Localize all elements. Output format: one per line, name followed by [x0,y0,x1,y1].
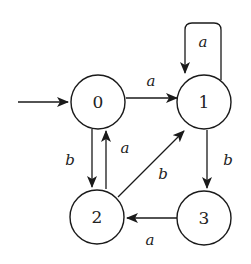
edge-1-1 [185,23,221,80]
state-0-label: 0 [93,92,104,112]
state-2: 2 [70,190,124,244]
state-1-label: 1 [199,92,210,112]
edge-0-2-label: b [65,151,75,169]
edge-3-2-label: a [146,231,155,249]
edge-0-1-label: a [147,72,156,90]
edge-2-0-label: a [121,139,130,157]
state-2-label: 2 [92,207,103,227]
edge-2-1-label: b [158,165,168,183]
state-3: 3 [177,191,231,245]
state-0: 0 [71,75,125,129]
automaton-diagram: a a b a b b a 0 1 2 3 [0,0,251,264]
state-1: 1 [177,75,231,129]
state-3-label: 3 [199,208,210,228]
edge-1-1-label: a [199,33,208,51]
edge-1-3-label: b [223,151,233,169]
